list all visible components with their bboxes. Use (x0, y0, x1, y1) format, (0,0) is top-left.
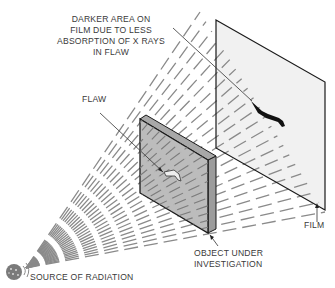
object-label: OBJECT UNDER INVESTIGATION (194, 248, 263, 270)
radiography-diagram: DARKER AREA ON FILM DUE TO LESS ABSORPTI… (0, 0, 335, 288)
slab-side (208, 156, 216, 233)
film-note-label: DARKER AREA ON FILM DUE TO LESS ABSORPTI… (55, 14, 167, 58)
flaw-label: FLAW (82, 94, 106, 105)
radiation-source-icon (6, 263, 29, 280)
film-label: FILM (304, 220, 324, 231)
film-note-line-3: ABSORPTION OF X RAYS (55, 36, 167, 47)
object-line-2: INVESTIGATION (194, 259, 263, 270)
source-label: SOURCE OF RADIATION (30, 272, 133, 283)
object-line-1: OBJECT UNDER (194, 248, 263, 259)
film-note-line-4: IN FLAW (55, 47, 167, 58)
film-note-line-1: DARKER AREA ON (55, 14, 167, 25)
film-note-line-2: FILM DUE TO LESS (55, 25, 167, 36)
